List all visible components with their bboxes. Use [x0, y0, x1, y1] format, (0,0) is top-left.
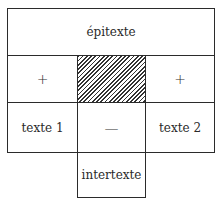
plus-left-cell: + [7, 55, 78, 103]
hatched-cell [77, 55, 146, 103]
plus-left-sign: + [37, 71, 49, 87]
plus-right-sign: + [174, 71, 186, 87]
texte2-label: texte 2 [159, 121, 201, 135]
texte2-cell: texte 2 [145, 102, 215, 153]
epitexte-label: épitexte [86, 25, 135, 39]
texte1-label: texte 1 [21, 121, 63, 135]
texte1-cell: texte 1 [7, 102, 78, 153]
plus-right-cell: + [145, 55, 215, 103]
epitexte-cell: épitexte [7, 8, 215, 56]
intertexte-label: intertexte [82, 168, 142, 182]
intertexte-cell: intertexte [77, 152, 146, 198]
minus-cell: — [77, 102, 146, 153]
minus-sign: — [105, 120, 119, 136]
